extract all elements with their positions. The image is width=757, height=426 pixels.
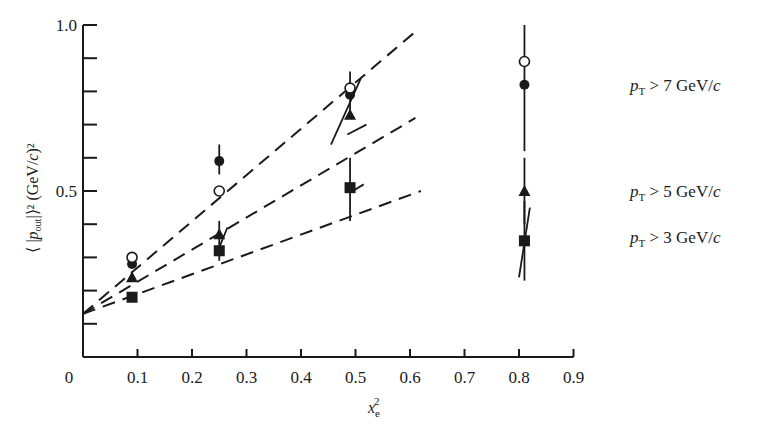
fit-lines <box>83 32 421 314</box>
triangle-marker <box>126 271 138 282</box>
open-circle-marker <box>127 252 137 262</box>
square-marker <box>345 182 356 193</box>
triangle-marker <box>213 228 225 239</box>
x-tick-label: 0.5 <box>345 368 366 387</box>
legend-label: pT > 7 GeV/c <box>629 76 721 97</box>
y-tick-label: 0.5 <box>56 182 77 201</box>
filled-circle-marker <box>214 156 224 166</box>
data-points <box>126 57 530 303</box>
open-circle-marker <box>345 83 355 93</box>
y-tick-label: 1.0 <box>56 16 77 35</box>
open-circle-marker <box>519 57 529 67</box>
x-tick-label: 0.6 <box>399 368 420 387</box>
y-axis-title: ⟨ |pout|⟩² (GeV/c)² <box>24 143 43 252</box>
x-tick-label: 0 <box>65 368 74 387</box>
square-marker <box>214 245 225 256</box>
slope-segment <box>347 125 366 135</box>
chart: 00.10.20.30.40.50.60.70.80.90.51.0 pT > … <box>0 0 757 426</box>
x-tick-label: 0.4 <box>290 368 312 387</box>
fit-line <box>83 118 415 314</box>
fit-line <box>83 32 415 314</box>
x-tick-label: 0.2 <box>181 368 202 387</box>
open-circle-marker <box>214 186 224 196</box>
x-axis-title: xe2 <box>367 395 380 419</box>
x-tick-label: 0.3 <box>236 368 257 387</box>
legend-label: pT > 3 GeV/c <box>629 228 721 249</box>
x-tick-label: 0.1 <box>127 368 148 387</box>
x-tick-label: 0.8 <box>508 368 529 387</box>
legend: pT > 7 GeV/cpT > 5 GeV/cpT > 3 GeV/c <box>629 76 721 250</box>
legend-label: pT > 5 GeV/c <box>629 182 721 203</box>
axes: 00.10.20.30.40.50.60.70.80.90.51.0 <box>56 16 584 387</box>
error-bars <box>217 25 530 281</box>
x-tick-label: 0.7 <box>454 368 476 387</box>
triangle-marker <box>518 185 530 196</box>
x-tick-label: 0.9 <box>563 368 584 387</box>
filled-circle-marker <box>519 80 529 90</box>
square-marker <box>127 292 138 303</box>
square-marker <box>519 235 530 246</box>
